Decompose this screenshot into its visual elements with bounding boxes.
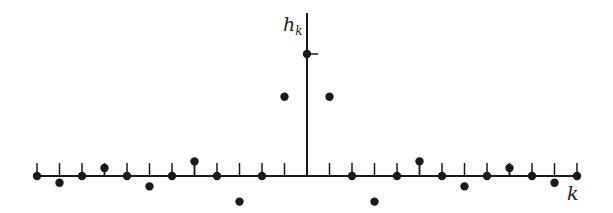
- data-point: [78, 172, 86, 180]
- data-point: [460, 182, 468, 190]
- data-point: [258, 172, 266, 180]
- data-point: [55, 179, 63, 187]
- data-point: [123, 172, 131, 180]
- data-point: [528, 172, 536, 180]
- data-point: [213, 172, 221, 180]
- x-axis-label: k: [567, 182, 579, 204]
- data-point: [145, 182, 153, 190]
- data-point: [100, 164, 108, 172]
- data-point: [370, 197, 378, 205]
- y-axis-label: hk: [283, 13, 303, 38]
- data-point: [573, 172, 581, 180]
- data-point: [235, 197, 243, 205]
- data-point: [280, 93, 288, 101]
- data-point: [325, 93, 333, 101]
- data-point: [33, 172, 41, 180]
- data-point: [415, 157, 423, 165]
- data-point: [168, 172, 176, 180]
- data-point: [393, 172, 401, 180]
- data-point: [190, 157, 198, 165]
- data-point: [438, 172, 446, 180]
- data-point: [348, 172, 356, 180]
- data-point: [505, 164, 513, 172]
- data-point: [303, 50, 311, 58]
- data-point: [550, 179, 558, 187]
- impulse-response-stem-plot: hk k: [0, 0, 613, 213]
- data-point: [483, 172, 491, 180]
